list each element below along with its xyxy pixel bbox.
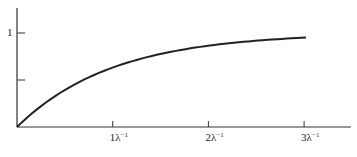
x-tick-label: 2λ−1 <box>205 132 223 143</box>
exponential-curve <box>17 38 306 127</box>
x-ticks <box>113 121 304 127</box>
x-tick-label: 3λ−1 <box>301 132 319 143</box>
y-ticks <box>17 33 25 80</box>
y-tick-label: 1 <box>7 27 13 38</box>
x-tick-label: 1λ−1 <box>110 132 128 143</box>
